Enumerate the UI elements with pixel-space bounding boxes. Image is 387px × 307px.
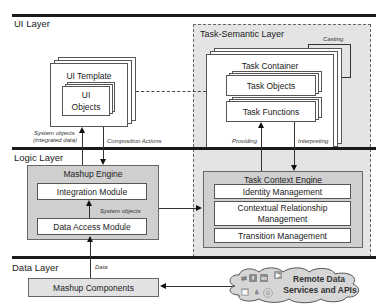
contextual-relationship-management: Contextual Relationship Management bbox=[214, 201, 351, 226]
mashup-components-label: Mashup Components bbox=[29, 283, 158, 293]
task-functions-label: Task Functions bbox=[227, 107, 315, 117]
identity-management-label: Identity Management bbox=[215, 187, 350, 197]
integration-module: Integration Module bbox=[37, 183, 147, 200]
task-functions: Task Functions bbox=[226, 101, 316, 122]
logic-layer-line bbox=[12, 147, 376, 150]
system-objects-inner-arrow-icon bbox=[86, 200, 92, 206]
ui-objects: UI Objects bbox=[62, 86, 110, 116]
system-objects-label-1: System objects bbox=[34, 130, 75, 136]
ui-objects-label-line2: Objects bbox=[63, 102, 109, 112]
ui-template-label: UI Template bbox=[51, 71, 127, 81]
contextual-relationship-label-2: Management bbox=[215, 214, 350, 224]
data-access-module: Data Access Module bbox=[37, 218, 147, 235]
task-container-label: Task Container bbox=[207, 61, 333, 71]
system-objects-inner-line bbox=[89, 204, 90, 218]
integration-module-label: Integration Module bbox=[38, 187, 146, 197]
remote-data-label-1: Remote Data bbox=[284, 274, 354, 285]
providing-line bbox=[261, 128, 262, 171]
data-layer-line bbox=[12, 256, 376, 259]
google-icon: G bbox=[263, 288, 273, 298]
casting-line-right bbox=[350, 44, 351, 78]
task-semantic-layer-label: Task-Semantic Layer bbox=[200, 29, 284, 39]
group-icon: ♟ bbox=[252, 288, 260, 296]
template-container-dashdot-line bbox=[136, 91, 206, 92]
interpreting-line bbox=[294, 122, 295, 165]
ui-layer-line bbox=[12, 14, 376, 17]
remote-data-label-2: Services and APIs bbox=[278, 285, 362, 296]
contextual-relationship-label-1: Contextual Relationship bbox=[215, 203, 350, 213]
task-objects: Task Objects bbox=[226, 75, 316, 96]
task-objects-label: Task Objects bbox=[227, 81, 315, 91]
data-arrow-icon bbox=[87, 236, 93, 242]
composition-actions-line bbox=[103, 127, 104, 159]
identity-management: Identity Management bbox=[214, 184, 351, 199]
ui-layer-label: UI Layer bbox=[14, 18, 50, 29]
youtube-icon: ▶ bbox=[274, 271, 282, 279]
data-access-module-label: Data Access Module bbox=[38, 222, 146, 232]
system-objects-line bbox=[82, 132, 83, 165]
composition-actions-label: Composition Actions bbox=[107, 138, 161, 144]
system-objects-label-2: (integrated data) bbox=[33, 137, 77, 143]
providing-label: Providing bbox=[232, 138, 257, 144]
ui-objects-label-line1: UI bbox=[63, 90, 109, 100]
system-objects-inner-label: System objects bbox=[100, 208, 141, 214]
image-icon: ▣ bbox=[241, 288, 249, 296]
mashup-engine-label: Mashup Engine bbox=[28, 169, 158, 179]
casting-line-top bbox=[308, 44, 350, 45]
providing-arrow-icon bbox=[258, 122, 264, 128]
engine-connector-arrow-icon bbox=[196, 205, 202, 211]
engine-connector-line bbox=[159, 208, 197, 209]
linkedin-icon: in bbox=[260, 274, 268, 282]
share-icon: ⇄ bbox=[240, 275, 248, 283]
transition-management-label: Transition Management bbox=[215, 231, 350, 241]
data-line bbox=[90, 240, 91, 278]
interpreting-label: Interpreting bbox=[298, 138, 328, 144]
remote-connector-arrow-icon bbox=[160, 283, 166, 289]
remote-connector-line bbox=[165, 286, 233, 287]
system-objects-arrow-icon bbox=[79, 127, 85, 133]
data-layer-label: Data Layer bbox=[12, 262, 58, 273]
facebook-icon: f bbox=[249, 274, 257, 282]
mashup-components: Mashup Components bbox=[28, 278, 159, 297]
data-label: Data bbox=[95, 264, 108, 270]
casting-label: Casting bbox=[323, 36, 343, 42]
logic-layer-label: Logic Layer bbox=[14, 152, 63, 163]
transition-management: Transition Management bbox=[214, 228, 351, 243]
